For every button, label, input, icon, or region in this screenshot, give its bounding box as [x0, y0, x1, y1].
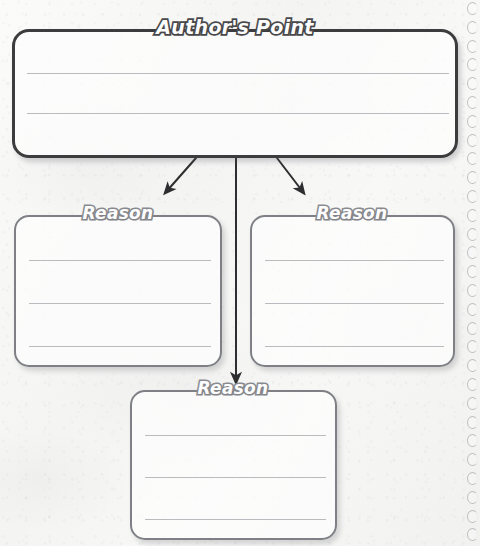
spiral-hole [467, 434, 478, 447]
reason-bottom-write-line-2[interactable] [145, 477, 326, 478]
spiral-hole [467, 284, 478, 297]
reason-bottom-label: Reason [193, 380, 274, 397]
spiral-hole [467, 40, 478, 53]
reason-right-label: Reason [312, 205, 393, 222]
reason-bottom-write-line-3[interactable] [145, 519, 326, 520]
reason-box-right[interactable] [250, 215, 455, 367]
spiral-hole [467, 190, 478, 203]
spiral-hole [467, 96, 478, 109]
spiral-hole [467, 58, 478, 71]
spiral-hole [467, 265, 478, 278]
spiral-hole [467, 152, 478, 165]
spiral-hole [467, 134, 478, 147]
spiral-hole [467, 416, 478, 429]
spiral-hole [467, 510, 478, 523]
reason-left-label: Reason [78, 205, 159, 222]
spiral-hole [467, 115, 478, 128]
spiral-hole [467, 246, 478, 259]
spiral-hole [467, 472, 478, 485]
spiral-hole [467, 228, 478, 241]
spiral-binding [458, 0, 480, 546]
spiral-hole [467, 397, 478, 410]
reason-right-write-line-3[interactable] [265, 346, 444, 347]
spiral-hole [467, 491, 478, 504]
reason-left-write-line-3[interactable] [29, 346, 211, 347]
authors-point-write-line-1[interactable] [27, 73, 449, 74]
reason-left-write-line-2[interactable] [29, 303, 211, 304]
reason-box-left[interactable] [14, 215, 222, 367]
worksheet-page: Author's Point Reason Reason Reason [0, 0, 480, 546]
reason-right-write-line-2[interactable] [265, 303, 444, 304]
spiral-hole [467, 359, 478, 372]
reason-right-write-line-1[interactable] [265, 260, 444, 261]
spiral-hole [467, 303, 478, 316]
arrow-left [166, 158, 196, 192]
spiral-hole [467, 340, 478, 353]
spiral-hole [467, 528, 478, 541]
authors-point-write-line-2[interactable] [27, 113, 449, 114]
authors-point-label: Author's Point [151, 18, 318, 37]
reason-bottom-write-line-1[interactable] [145, 435, 326, 436]
spiral-hole [467, 209, 478, 222]
spiral-hole [467, 378, 478, 391]
spiral-hole [467, 322, 478, 335]
spiral-hole [467, 171, 478, 184]
reason-box-bottom[interactable] [130, 390, 337, 540]
reason-left-write-line-1[interactable] [29, 260, 211, 261]
authors-point-box[interactable] [12, 29, 458, 158]
spiral-hole [467, 453, 478, 466]
spiral-hole [467, 21, 478, 34]
arrow-right [277, 158, 303, 192]
spiral-hole [467, 77, 478, 90]
spiral-hole [467, 2, 478, 15]
